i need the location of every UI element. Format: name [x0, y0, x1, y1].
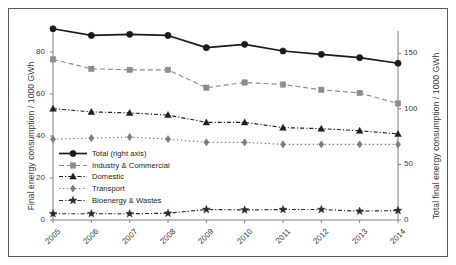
y-tick-label-left: 20 [15, 173, 45, 182]
series-2 [50, 105, 402, 136]
legend-item[interactable]: Total (right axis) [58, 148, 170, 160]
legend-item[interactable]: Transport [58, 183, 170, 195]
plot-area [0, 0, 456, 265]
y-tick-label-right: 150 [404, 48, 434, 57]
series-0 [50, 26, 401, 67]
y-tick-label-left: 80 [15, 47, 45, 56]
series-4 [49, 205, 402, 217]
y-tick-label-right: 0 [404, 215, 434, 224]
legend-item[interactable]: Bioenergy & Wastes [58, 194, 170, 206]
legend-key-star-icon [58, 195, 88, 206]
legend-item[interactable]: Industry & Commercial [58, 160, 170, 172]
y-tick-label-left: 60 [15, 89, 45, 98]
y-tick-label-right: 50 [404, 159, 434, 168]
chart-figure: Final energy consumption / 1000 GWh Tota… [0, 0, 456, 265]
legend-item[interactable]: Domestic [58, 171, 170, 183]
legend-key-circle-icon [58, 148, 88, 159]
legend-item-label: Domestic [88, 172, 124, 181]
y-tick-label-right: 100 [404, 104, 434, 113]
legend-item-label: Bioenergy & Wastes [88, 196, 161, 205]
y-tick-label-left: 40 [15, 131, 45, 140]
series-3 [50, 133, 400, 148]
y-tick-label-left: 0 [15, 215, 45, 224]
chart-legend: Total (right axis)Industry & CommercialD… [58, 148, 170, 206]
legend-item-label: Industry & Commercial [88, 161, 170, 170]
legend-key-square-icon [58, 160, 88, 171]
series-1 [50, 57, 400, 107]
legend-key-diamond-icon [58, 183, 88, 194]
legend-item-label: Transport [88, 184, 125, 193]
legend-item-label: Total (right axis) [88, 149, 147, 158]
legend-key-triangle-icon [58, 171, 88, 182]
